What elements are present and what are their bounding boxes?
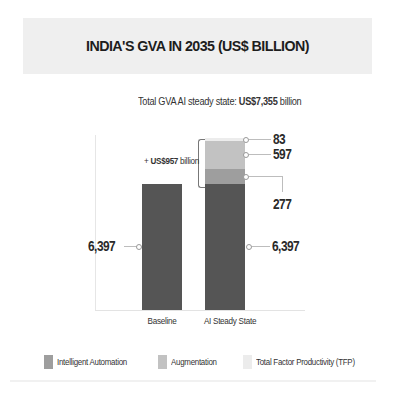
- chart-subtitle: Total GVA AI steady state: US$7,355 bill…: [138, 96, 301, 107]
- bar-baseline: [142, 184, 182, 310]
- swatch-augmentation: [158, 355, 167, 369]
- bar-ai-steady-state: [205, 138, 245, 310]
- ai-base-marker: [246, 244, 252, 250]
- augmentation-value-label: 597: [273, 146, 291, 162]
- tfp-leader: [249, 139, 271, 140]
- subtitle-suffix: billion: [278, 96, 302, 107]
- automation-leader-drop: [282, 176, 283, 192]
- gain-brace: [198, 139, 205, 188]
- automation-marker: [243, 174, 249, 180]
- automation-leader: [249, 176, 282, 177]
- augmentation-marker: [243, 152, 249, 158]
- x-axis: [95, 310, 305, 311]
- chart-title: INDIA'S GVA IN 2035 (US$ BILLION): [37, 37, 358, 55]
- gain-value: US$957: [150, 156, 178, 166]
- ai-base-leader: [252, 246, 270, 247]
- subtitle-total: US$7,355: [239, 96, 278, 107]
- category-baseline: Baseline: [148, 316, 177, 326]
- automation-value-label: 277: [273, 196, 291, 212]
- footer-divider: [10, 380, 376, 382]
- segment-augmentation: [205, 141, 245, 169]
- augmentation-leader: [249, 154, 271, 155]
- tfp-value-label: 83: [273, 131, 285, 147]
- category-ai-steady-state: AI Steady State: [204, 316, 256, 326]
- legend-item-augmentation: Augmentation: [158, 355, 223, 369]
- ai-base-value-label: 6,397: [272, 238, 299, 254]
- swatch-tfp: [243, 355, 252, 369]
- legend-item-intelligent-automation: Intelligent Automation: [44, 355, 136, 369]
- y-axis: [95, 135, 96, 310]
- tfp-marker: [243, 137, 249, 143]
- title-band: INDIA'S GVA IN 2035 (US$ BILLION): [23, 18, 372, 74]
- swatch-intelligent-automation: [44, 355, 53, 369]
- segment-baseline-gva: [205, 184, 245, 310]
- gain-annotation: + US$957 billion: [144, 156, 199, 166]
- baseline-value-label: 6,397: [88, 238, 115, 254]
- legend: Intelligent Automation Augmentation Tota…: [44, 355, 383, 369]
- segment-intelligent-automation: [205, 169, 245, 184]
- legend-item-tfp: Total Factor Productivity (TFP): [243, 355, 368, 369]
- subtitle-prefix: Total GVA AI steady state:: [138, 96, 239, 107]
- baseline-marker: [136, 244, 142, 250]
